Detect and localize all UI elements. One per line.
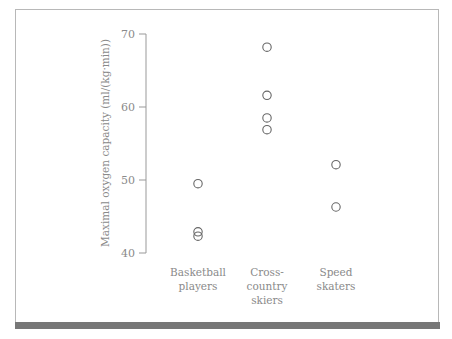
category-label: Cross- bbox=[250, 266, 284, 278]
y-tick-label: 60 bbox=[121, 101, 135, 114]
data-point bbox=[263, 114, 271, 122]
category-label: players bbox=[179, 280, 218, 292]
y-tick-label: 70 bbox=[121, 28, 135, 41]
category-label: skaters bbox=[317, 280, 356, 292]
category-label: Speed bbox=[319, 266, 352, 278]
data-point bbox=[194, 179, 202, 187]
category-label: country bbox=[247, 280, 288, 292]
data-point bbox=[263, 43, 271, 51]
category-label: Basketball bbox=[170, 266, 227, 278]
y-axis-label: Maximal oxygen capacity (ml/(kg·min)) bbox=[99, 39, 111, 247]
data-point bbox=[263, 125, 271, 133]
data-point bbox=[332, 203, 340, 211]
category-label: skiers bbox=[251, 294, 283, 306]
data-point bbox=[332, 160, 340, 168]
y-tick-label: 50 bbox=[121, 174, 135, 187]
y-tick-label: 40 bbox=[121, 247, 135, 260]
data-point bbox=[263, 91, 271, 99]
scatter-chart: 40506070Maximal oxygen capacity (ml/(kg·… bbox=[0, 0, 452, 339]
